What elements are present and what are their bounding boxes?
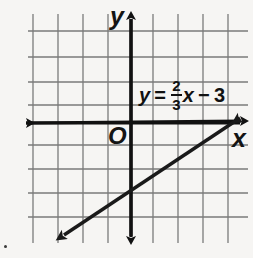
equation-variable: x	[183, 85, 194, 105]
x-axis-positive-arrow	[26, 121, 241, 123]
equation-fraction: 2 3	[171, 78, 182, 113]
equation-equals-sign: =	[154, 85, 166, 105]
equation-minus-sign: −	[198, 85, 210, 105]
fraction-numerator: 2	[171, 78, 182, 94]
coordinate-plane-figure: y x O y = 2 3 x − 3	[0, 0, 253, 258]
grid-lines	[28, 14, 248, 243]
fraction-denominator: 3	[171, 94, 182, 112]
y-axis-label: y	[110, 4, 124, 29]
equation-constant: 3	[214, 85, 225, 105]
x-axis-label: x	[232, 126, 246, 151]
equation-lhs: y	[139, 85, 150, 105]
origin-label: O	[108, 124, 127, 148]
equation-annotation: y = 2 3 x − 3	[139, 78, 225, 113]
corner-dot-mark	[4, 245, 7, 248]
